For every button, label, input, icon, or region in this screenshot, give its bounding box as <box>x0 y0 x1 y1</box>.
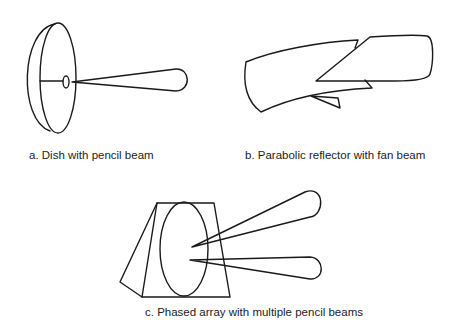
caption-b: b. Parabolic reflector with fan beam <box>245 149 425 161</box>
panel-c-phased-array <box>120 191 321 297</box>
dish-back-rim <box>27 24 55 131</box>
antenna-diagram <box>0 0 460 325</box>
reflector-feed-tab <box>311 96 340 108</box>
caption-a: a. Dish with pencil beam <box>29 149 154 161</box>
pencil-beam-upper <box>192 191 321 247</box>
panel-a-dish <box>27 23 187 133</box>
panel-b-reflector <box>245 35 433 112</box>
pencil-beam-lower <box>190 257 321 279</box>
dish-face <box>40 23 76 133</box>
pencil-beam-a <box>72 69 187 91</box>
array-frame <box>142 203 230 297</box>
caption-c: c. Phased array with multiple pencil bea… <box>145 306 363 318</box>
dish-feed <box>63 76 69 88</box>
array-aperture <box>160 202 208 296</box>
array-side-panel <box>120 203 157 297</box>
